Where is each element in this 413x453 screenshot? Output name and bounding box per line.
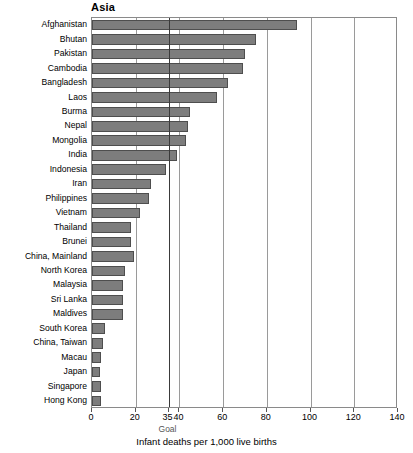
y-axis-label: Hong Kong [0, 395, 87, 405]
bar [92, 280, 123, 291]
x-tick-label: 0 [88, 412, 93, 422]
bar [92, 295, 123, 306]
bar [92, 222, 131, 233]
bar [92, 34, 256, 45]
chart-title: Asia [91, 1, 115, 13]
y-axis-label: Vietnam [0, 207, 87, 217]
bar-row [92, 134, 397, 148]
x-tick-label: 35 [162, 412, 172, 422]
bar [92, 352, 101, 363]
bar [92, 164, 166, 175]
bar [92, 179, 151, 190]
bar [92, 135, 186, 146]
bar [92, 20, 297, 31]
bar-row [92, 76, 397, 90]
bar [92, 150, 177, 161]
bar [92, 92, 217, 103]
bar [92, 237, 131, 248]
x-tick-label: 60 [217, 412, 227, 422]
bar [92, 107, 190, 118]
x-tick-label: 20 [130, 412, 140, 422]
bar-row [92, 336, 397, 350]
bar [92, 78, 228, 89]
bar [92, 193, 149, 204]
bar-row [92, 177, 397, 191]
bar-row [92, 163, 397, 177]
bar [92, 208, 140, 219]
bar-row [92, 148, 397, 162]
bar-row [92, 235, 397, 249]
bar [92, 396, 101, 407]
y-axis-label: Malaysia [0, 279, 87, 289]
bar [92, 381, 101, 392]
plot-area [91, 17, 397, 408]
y-axis-label: India [0, 149, 87, 159]
bar-row [92, 264, 397, 278]
bar-row [92, 322, 397, 336]
y-axis-label: Iran [0, 178, 87, 188]
bar-row [92, 278, 397, 292]
y-axis-label: Bhutan [0, 34, 87, 44]
bar-row [92, 32, 397, 46]
y-axis-label: South Korea [0, 323, 87, 333]
y-axis-label: Pakistan [0, 48, 87, 58]
y-axis-label: Cambodia [0, 63, 87, 73]
bar-row [92, 192, 397, 206]
y-axis-label: Afghanistan [0, 19, 87, 29]
x-tick-label: 140 [389, 412, 404, 422]
bar-row [92, 220, 397, 234]
y-axis-label: Bangladesh [0, 77, 87, 87]
y-axis-label: China, Mainland [0, 251, 87, 261]
bar [92, 266, 125, 277]
bar-row [92, 380, 397, 394]
infant-mortality-bar-chart: Asia AfghanistanBhutanPakistanCambodiaBa… [0, 0, 413, 453]
x-tick-label: 80 [261, 412, 271, 422]
y-axis-label: Sri Lanka [0, 294, 87, 304]
y-axis-label: Japan [0, 366, 87, 376]
y-axis-label: China, Taiwan [0, 337, 87, 347]
y-axis-label: Brunei [0, 236, 87, 246]
bar-row [92, 351, 397, 365]
bar-row [92, 293, 397, 307]
bar-row [92, 365, 397, 379]
bar-row [92, 307, 397, 321]
bar-row [92, 47, 397, 61]
y-axis-label: Indonesia [0, 164, 87, 174]
bar-rows [92, 18, 396, 407]
y-axis-label: Macau [0, 352, 87, 362]
x-tick-label: 100 [302, 412, 317, 422]
y-axis-label: Laos [0, 92, 87, 102]
bar [92, 121, 188, 132]
x-tick-label: 120 [346, 412, 361, 422]
bar [92, 323, 105, 334]
y-axis-label: North Korea [0, 265, 87, 275]
x-axis-tick-labels: 02035406080100120140 [0, 412, 413, 426]
bar [92, 309, 123, 320]
bar-row [92, 206, 397, 220]
bar-row [92, 105, 397, 119]
y-axis-label: Nepal [0, 120, 87, 130]
y-axis-label: Burma [0, 106, 87, 116]
bar-row [92, 119, 397, 133]
bar [92, 367, 100, 378]
goal-reference-line [169, 18, 170, 407]
y-axis-label: Philippines [0, 193, 87, 203]
bar-row [92, 90, 397, 104]
x-axis-title: Infant deaths per 1,000 live births [0, 436, 413, 447]
bar-row [92, 394, 397, 408]
bar-row [92, 18, 397, 32]
y-axis-label: Maldives [0, 308, 87, 318]
bar-row [92, 61, 397, 75]
bar [92, 251, 134, 262]
y-axis-label: Mongolia [0, 135, 87, 145]
bar [92, 338, 103, 349]
goal-annotation-label: Goal [159, 424, 177, 434]
y-axis-label: Thailand [0, 222, 87, 232]
x-tick-label: 40 [173, 412, 183, 422]
bar [92, 63, 243, 74]
bar-row [92, 249, 397, 263]
y-axis-label: Singapore [0, 381, 87, 391]
